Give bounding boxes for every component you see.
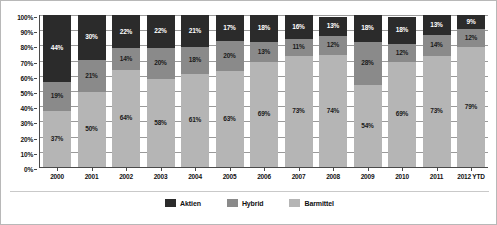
bar-segment-aktien[interactable]: 30% [78, 15, 106, 60]
y-axis-tickmark [34, 63, 37, 64]
bar-segment-value-label: 12% [465, 35, 477, 42]
bar-column[interactable]: 16%11%73% [285, 15, 313, 167]
x-axis-tickmark [92, 168, 93, 171]
x-axis-tickmark [402, 168, 403, 171]
bar-segment-aktien[interactable]: 18% [388, 17, 416, 44]
bar-segment-aktien[interactable]: 16% [285, 15, 313, 39]
y-axis-tick-label: 0% [24, 166, 33, 173]
bar-column[interactable]: 9%12%79% [457, 15, 485, 167]
bar-segment-hybrid[interactable]: 20% [147, 48, 175, 78]
legend-label: Hybrid [242, 200, 264, 207]
chart-legend: AktienHybridBarmittel [1, 199, 497, 207]
bar-segment-barmittel[interactable]: 73% [423, 56, 451, 167]
bar-segment-value-label: 54% [361, 123, 373, 130]
bar-segment-aktien[interactable]: 13% [319, 17, 347, 37]
bar-segment-barmittel[interactable]: 54% [354, 85, 382, 167]
y-axis-tickmark [34, 47, 37, 48]
bar-segment-hybrid[interactable]: 12% [388, 44, 416, 62]
bar-segment-hybrid[interactable]: 21% [78, 60, 106, 92]
bar-segment-aktien[interactable]: 18% [250, 15, 278, 42]
bar-segment-hybrid[interactable]: 11% [285, 39, 313, 56]
bar-segment-value-label: 16% [292, 24, 304, 31]
bar-segment-aktien[interactable]: 17% [216, 15, 244, 41]
bar-segment-hybrid[interactable]: 20% [216, 41, 244, 71]
bar-column[interactable]: 22%20%58% [147, 15, 175, 167]
bar-column[interactable]: 18%12%69% [388, 15, 416, 167]
x-axis-tick-label: 2012 YTD [457, 173, 485, 180]
x-axis-tickmark [368, 168, 369, 171]
bar-segment-barmittel[interactable]: 63% [216, 71, 244, 167]
bar-column[interactable]: 17%20%63% [216, 15, 244, 167]
bar-segment-aktien[interactable]: 9% [457, 15, 485, 29]
x-axis-tick-label: 2003 [154, 173, 168, 180]
bar-column[interactable]: 22%14%64% [112, 15, 140, 167]
bar-column[interactable]: 13%12%74% [319, 15, 347, 167]
bar-segment-hybrid[interactable]: 14% [112, 48, 140, 69]
legend-swatch-icon [165, 199, 176, 207]
bar-group: 44%19%37%30%21%50%22%14%64%22%20%58%21%1… [40, 15, 488, 167]
bar-segment-value-label: 30% [85, 34, 97, 41]
bar-segment-value-label: 22% [154, 28, 166, 35]
y-axis-tickmark [34, 123, 37, 124]
x-axis-tickmark [471, 168, 472, 171]
bar-segment-aktien[interactable]: 18% [354, 15, 382, 42]
bar-column[interactable]: 21%18%61% [181, 15, 209, 167]
bar-segment-value-label: 61% [189, 117, 201, 124]
bar-segment-hybrid[interactable]: 12% [319, 36, 347, 54]
legend-item-hybrid[interactable]: Hybrid [227, 199, 264, 207]
x-axis-tickmark [195, 168, 196, 171]
y-axis-tick-label: 100% [17, 14, 33, 21]
x-axis-tickmark [299, 168, 300, 171]
bar-segment-barmittel[interactable]: 69% [250, 62, 278, 167]
bar-segment-value-label: 37% [51, 136, 63, 143]
bar-segment-value-label: 50% [85, 126, 97, 133]
bar-segment-hybrid[interactable]: 18% [181, 47, 209, 74]
x-axis-tickmark [264, 168, 265, 171]
legend-swatch-icon [227, 199, 238, 207]
bar-column[interactable]: 30%21%50% [78, 15, 106, 167]
y-axis-tickmark [34, 93, 37, 94]
bar-column[interactable]: 18%28%54% [354, 15, 382, 167]
bar-segment-aktien[interactable]: 22% [112, 15, 140, 48]
bar-segment-aktien[interactable]: 13% [423, 15, 451, 35]
bar-segment-barmittel[interactable]: 50% [78, 92, 106, 167]
bar-segment-barmittel[interactable]: 69% [388, 62, 416, 167]
legend-label: Barmittel [304, 200, 333, 207]
bar-segment-value-label: 20% [223, 53, 235, 60]
bar-column[interactable]: 44%19%37% [43, 15, 71, 167]
chart-frame: 100%90%80%70%60%50%40%30%20%10%0% 44%19%… [0, 0, 497, 225]
bar-segment-value-label: 18% [258, 25, 270, 32]
bar-segment-hybrid[interactable]: 19% [43, 82, 71, 111]
bar-segment-value-label: 73% [430, 108, 442, 115]
bar-segment-value-label: 69% [258, 111, 270, 118]
y-axis-tick-label: 20% [21, 135, 33, 142]
legend-divider [10, 191, 489, 192]
bar-column[interactable]: 13%14%73% [423, 15, 451, 167]
legend-item-aktien[interactable]: Aktien [165, 199, 201, 207]
x-axis-tick: 2009 [354, 168, 382, 184]
bar-segment-aktien[interactable]: 44% [43, 15, 71, 82]
bar-segment-barmittel[interactable]: 79% [457, 47, 485, 167]
bar-segment-barmittel[interactable]: 73% [285, 56, 313, 167]
x-axis-tick: 2010 [388, 168, 416, 184]
bar-segment-value-label: 19% [51, 93, 63, 100]
bar-segment-barmittel[interactable]: 64% [112, 70, 140, 167]
y-axis-tick-label: 60% [21, 74, 33, 81]
x-axis-tick: 2007 [285, 168, 313, 184]
bar-segment-hybrid[interactable]: 28% [354, 42, 382, 85]
bar-segment-barmittel[interactable]: 74% [319, 55, 347, 167]
bar-segment-hybrid[interactable]: 13% [250, 42, 278, 62]
bar-segment-barmittel[interactable]: 61% [181, 74, 209, 167]
bar-segment-hybrid[interactable]: 12% [457, 29, 485, 47]
bar-segment-aktien[interactable]: 22% [147, 15, 175, 48]
y-axis-tickmark [34, 169, 37, 170]
bar-segment-barmittel[interactable]: 58% [147, 79, 175, 167]
x-axis-tick: 2003 [147, 168, 175, 184]
bar-segment-value-label: 18% [189, 57, 201, 64]
bar-segment-aktien[interactable]: 21% [181, 15, 209, 47]
bar-segment-hybrid[interactable]: 14% [423, 35, 451, 56]
x-axis-tick-label: 2000 [50, 173, 64, 180]
bar-column[interactable]: 18%13%69% [250, 15, 278, 167]
legend-item-barmittel[interactable]: Barmittel [289, 199, 333, 207]
bar-segment-barmittel[interactable]: 37% [43, 111, 71, 167]
